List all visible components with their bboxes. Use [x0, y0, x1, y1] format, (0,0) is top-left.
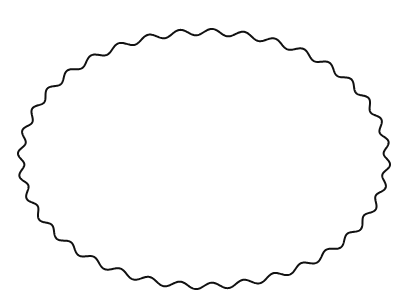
wavy-ellipse-shape — [18, 29, 390, 289]
diagram-canvas — [0, 0, 410, 305]
